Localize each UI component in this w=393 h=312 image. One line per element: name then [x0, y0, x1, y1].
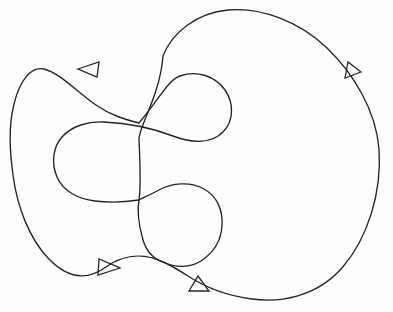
spiral-c-curve [10, 69, 231, 276]
knot-diagram-canvas [0, 0, 393, 312]
knot-diagram-figure: Hand-drawn oriented knot diagram Two ove… [0, 0, 393, 312]
arrow-top-left [78, 62, 99, 77]
outer-loop-curve [138, 10, 379, 300]
